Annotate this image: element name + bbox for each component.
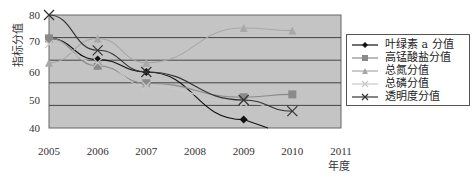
square-marker: [288, 90, 296, 98]
legend-item: 总磷分值: [351, 77, 469, 90]
legend-item: 透明度分值: [351, 90, 469, 103]
plot-area: [49, 15, 341, 128]
y-tick-label: 70: [29, 35, 41, 47]
x-axis-title: 年度: [328, 159, 350, 173]
legend-item: 高锰酸盐分值: [351, 51, 469, 64]
x-icon: [351, 92, 379, 102]
x-tick-label: 2011: [330, 145, 352, 157]
diamond-icon: [351, 40, 379, 50]
legend-item: 叶绿素 a 分值: [351, 38, 469, 51]
x-tick-label: 2006: [87, 145, 110, 157]
y-tick-label: 80: [29, 9, 41, 21]
y-axis-title: 指标分值: [11, 23, 25, 67]
x-tick-label: 2007: [135, 145, 158, 157]
legend-label: 总磷分值: [385, 77, 429, 90]
x-tick-label: 2005: [38, 145, 61, 157]
legend-label: 叶绿素 a 分值: [385, 38, 454, 51]
x-icon: [351, 79, 379, 89]
x-tick-label: 2009: [233, 145, 256, 157]
x-tick-label: 2008: [184, 145, 207, 157]
legend-label: 透明度分值: [385, 90, 440, 103]
y-tick-label: 50: [29, 94, 41, 106]
square-icon: [351, 53, 379, 63]
legend-label: 总氮分值: [385, 64, 429, 77]
x-tick-label: 2010: [281, 145, 304, 157]
legend-item: 总氮分值: [351, 64, 469, 77]
legend-label: 高锰酸盐分值: [385, 51, 451, 64]
triangle-icon: [351, 66, 379, 76]
y-tick-label: 40: [29, 122, 41, 134]
y-tick-label: 60: [29, 66, 41, 78]
chart-legend: 叶绿素 a 分值高锰酸盐分值总氮分值总磷分值透明度分值: [346, 34, 470, 106]
